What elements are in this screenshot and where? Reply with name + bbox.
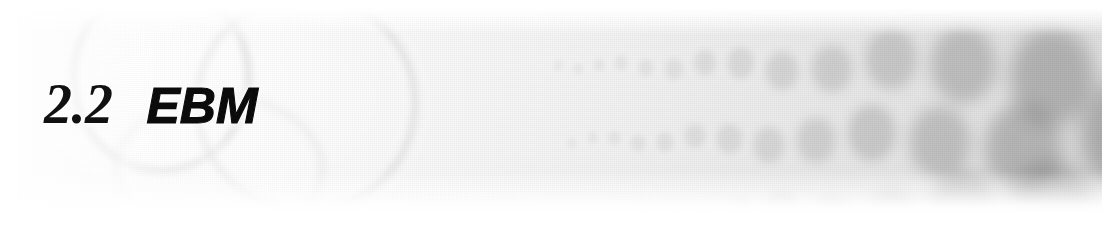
section-heading: 2.2 EBM bbox=[44, 76, 258, 132]
section-title: EBM bbox=[147, 81, 258, 131]
section-header-banner: 2.2 EBM bbox=[0, 0, 1112, 231]
section-number: 2.2 bbox=[44, 76, 113, 132]
